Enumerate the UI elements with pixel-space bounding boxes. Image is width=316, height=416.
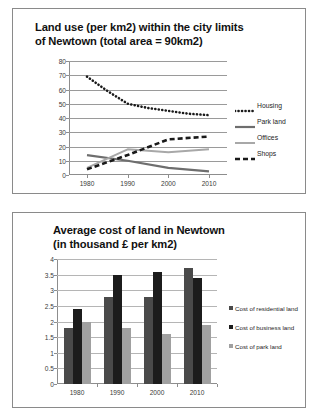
land-cost-bar-chart-figure: Average cost of land in Newtown (in thou… (12, 212, 306, 408)
x-tick-mark (217, 384, 218, 387)
x-tick-mark (209, 175, 210, 178)
x-tick-label: 1990 (110, 389, 125, 396)
bar-cost-of-business-land-1990 (113, 275, 122, 384)
legend-label: Offices (257, 134, 278, 141)
y-tick-label: 2.5 (45, 302, 54, 309)
x-tick-label: 2000 (161, 180, 176, 187)
legend-label: Cost of business land (235, 324, 294, 331)
legend-item-offices: Offices (235, 129, 303, 145)
legend-swatch-icon (229, 325, 233, 329)
chart-1-title: Land use (per km2) within the city limit… (35, 20, 283, 48)
chart-2-title-line-1: Average cost of land in Newtown (53, 224, 225, 236)
y-tick-label: 50 (59, 100, 66, 107)
bar-group-1990 (97, 259, 137, 384)
y-tick-label: 20 (59, 143, 66, 150)
x-tick-label: 1980 (70, 389, 85, 396)
screenshot-page: Land use (per km2) within the city limit… (0, 0, 316, 416)
x-tick-label: 2000 (150, 389, 165, 396)
legend-item-housing: Housing (235, 97, 303, 113)
legend-label: Cost of park land (235, 343, 282, 350)
series-line-housing (87, 77, 209, 115)
chart-2-bar-groups (57, 259, 217, 384)
legend-item-cost-of-park-land: Cost of park land (229, 343, 307, 362)
y-tick-mark (54, 384, 57, 385)
bar-cost-of-park-land-1980 (82, 322, 91, 385)
legend-swatch-icon (229, 344, 233, 348)
legend-label: Shops (257, 150, 276, 157)
chart-1-series-svg (69, 61, 227, 175)
x-tick-mark (168, 175, 169, 178)
bar-group-1980 (57, 259, 97, 384)
legend-label: Housing (257, 102, 282, 109)
x-tick-mark (87, 175, 88, 178)
x-tick-mark (128, 175, 129, 178)
y-tick-label: 10 (59, 157, 66, 164)
chart-2-title-line-2: (in thousand £ per km2) (53, 238, 177, 250)
bar-group-2010 (177, 259, 217, 384)
bar-cost-of-business-land-2010 (193, 278, 202, 384)
y-tick-label: 0.5 (45, 365, 54, 372)
y-tick-mark (66, 175, 69, 176)
legend-swatch-icon (235, 149, 255, 157)
bar-cost-of-residential-land-1980 (64, 328, 73, 384)
bar-cost-of-business-land-2000 (153, 272, 162, 385)
legend-item-shops: Shops (235, 145, 303, 161)
chart-1-title-line-1: Land use (per km2) within the city limit… (35, 21, 244, 33)
chart-1-title-line-2: of Newtown (total area = 90km2) (35, 35, 203, 47)
x-tick-mark (97, 384, 98, 387)
legend-item-cost-of-residential-land: Cost of residential land (229, 305, 307, 324)
y-tick-label: 60 (59, 86, 66, 93)
y-tick-label: 30 (59, 129, 66, 136)
legend-swatch-icon (235, 101, 255, 109)
x-tick-label: 2010 (190, 389, 205, 396)
x-tick-label: 2010 (202, 180, 217, 187)
x-tick-label: 1990 (120, 180, 135, 187)
bar-cost-of-residential-land-2010 (184, 268, 193, 384)
y-tick-label: 80 (59, 58, 66, 65)
legend-item-cost-of-business-land: Cost of business land (229, 324, 307, 343)
legend-label: Cost of residential land (235, 305, 298, 312)
legend-swatch-icon (235, 117, 255, 125)
bar-group-2000 (137, 259, 177, 384)
chart-2-legend: Cost of residential landCost of business… (229, 305, 307, 362)
y-tick-label: 70 (59, 72, 66, 79)
y-tick-label: 1.5 (45, 334, 54, 341)
x-tick-mark (137, 384, 138, 387)
bar-cost-of-park-land-2010 (202, 325, 211, 384)
y-tick-label: 3.5 (45, 271, 54, 278)
bar-cost-of-park-land-2000 (162, 334, 171, 384)
y-tick-label: 40 (59, 115, 66, 122)
bar-cost-of-park-land-1990 (122, 328, 131, 384)
legend-label: Park land (257, 118, 286, 125)
bar-cost-of-residential-land-1990 (104, 297, 113, 385)
legend-swatch-icon (235, 133, 255, 141)
chart-2-plot-area: 00.511.522.533.54 1980199020002010 (57, 259, 217, 384)
chart-1-legend: HousingPark landOfficesShops (235, 97, 303, 161)
x-tick-label: 1980 (80, 180, 95, 187)
chart-1-plot-area: 01020304050607080 1980199020002010 (69, 61, 227, 175)
legend-item-park-land: Park land (235, 113, 303, 129)
chart-2-title: Average cost of land in Newtown (in thou… (53, 223, 285, 251)
bar-cost-of-business-land-1980 (73, 309, 82, 384)
bar-cost-of-residential-land-2000 (144, 297, 153, 385)
land-use-line-chart-figure: Land use (per km2) within the city limit… (12, 8, 306, 194)
legend-swatch-icon (229, 306, 233, 310)
x-tick-mark (177, 384, 178, 387)
